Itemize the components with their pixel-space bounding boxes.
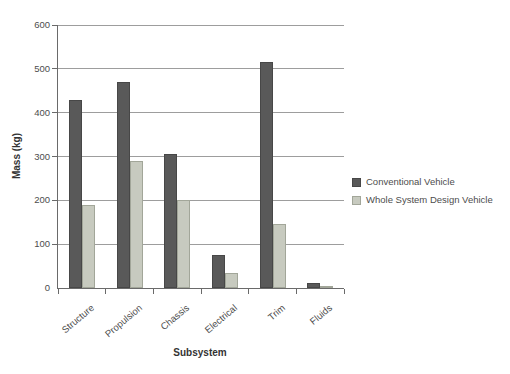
legend-label: Whole System Design Vehicle — [366, 195, 493, 205]
bar-whole-system-design-vehicle-trim — [273, 224, 286, 288]
x-axis-tick — [58, 289, 59, 294]
bar-conventional-vehicle-propulsion — [117, 82, 130, 288]
legend-swatch — [352, 196, 361, 205]
legend-label: Conventional Vehicle — [366, 177, 455, 187]
bar-conventional-vehicle-fluids — [307, 283, 320, 288]
gridline-400 — [58, 112, 344, 113]
bar-whole-system-design-vehicle-electrical — [225, 273, 238, 288]
y-tick-label-400: 400 — [0, 108, 50, 118]
x-axis-tick — [153, 289, 154, 294]
y-axis-tick — [52, 25, 57, 26]
bar-conventional-vehicle-electrical — [212, 255, 225, 288]
y-tick-label-500: 500 — [0, 64, 50, 74]
y-axis-tick — [52, 68, 57, 69]
y-axis-tick-labels: 0100200300400500600 — [0, 25, 50, 288]
y-tick-label-0: 0 — [0, 283, 50, 293]
y-axis-tick — [52, 112, 57, 113]
legend-item-conventional-vehicle: Conventional Vehicle — [352, 177, 493, 187]
legend-swatch — [352, 178, 361, 187]
legend-item-whole-system-design-vehicle: Whole System Design Vehicle — [352, 195, 493, 205]
bar-conventional-vehicle-chassis — [164, 154, 177, 288]
x-axis-title: Subsystem — [57, 347, 343, 358]
gridline-600 — [58, 25, 344, 26]
x-axis-tick — [296, 289, 297, 294]
x-axis-tick — [105, 289, 106, 294]
y-tick-label-200: 200 — [0, 195, 50, 205]
gridline-200 — [58, 200, 344, 201]
plot-area — [57, 25, 344, 289]
y-axis-tick — [52, 200, 57, 201]
y-axis-tick — [52, 244, 57, 245]
bar-whole-system-design-vehicle-propulsion — [130, 161, 143, 288]
y-tick-label-300: 300 — [0, 152, 50, 162]
gridline-300 — [58, 156, 344, 157]
bar-whole-system-design-vehicle-fluids — [320, 286, 333, 288]
bar-whole-system-design-vehicle-structure — [82, 205, 95, 288]
y-tick-label-600: 600 — [0, 20, 50, 30]
x-axis-tick — [248, 289, 249, 294]
bar-conventional-vehicle-trim — [260, 62, 273, 288]
y-tick-label-100: 100 — [0, 239, 50, 249]
x-axis-tick — [344, 289, 345, 294]
bar-whole-system-design-vehicle-chassis — [177, 200, 190, 288]
gridline-500 — [58, 68, 344, 69]
gridline-100 — [58, 244, 344, 245]
bar-conventional-vehicle-structure — [69, 100, 82, 288]
legend: Conventional VehicleWhole System Design … — [352, 177, 493, 213]
bar-chart: Mass (kg) 0100200300400500600 StructureP… — [0, 0, 510, 374]
y-axis-tick — [52, 156, 57, 157]
x-axis-tick — [201, 289, 202, 294]
